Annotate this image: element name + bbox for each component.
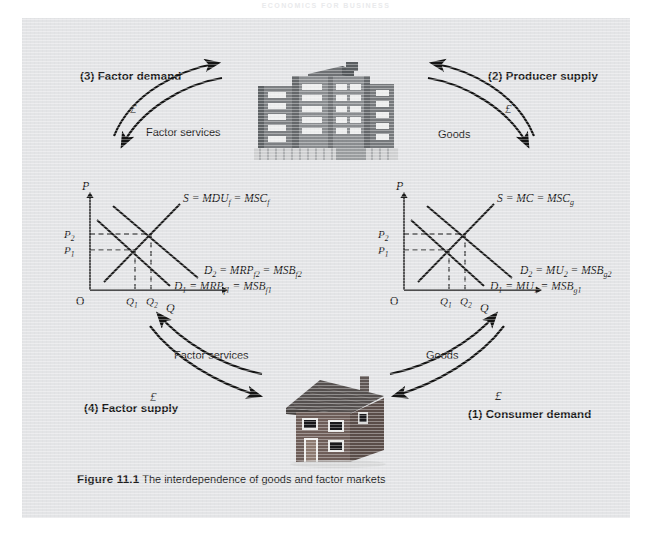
flow-type-goods-bottom: Goods bbox=[426, 350, 458, 361]
y-tick-p1-factor: P1 bbox=[63, 244, 74, 259]
money-symbol-factor-supply: £ bbox=[150, 390, 157, 403]
flow-label-factor-demand: (3) Factor demand bbox=[80, 71, 181, 83]
x-axis-label-goods: Q bbox=[480, 301, 489, 315]
x-axis-label-factor: Q bbox=[166, 301, 175, 315]
figure-caption-text: The interdependence of goods and factor … bbox=[142, 473, 385, 485]
y-tick-p2-factor: P2 bbox=[63, 228, 75, 243]
x-tick-q1-factor: Q1 bbox=[126, 295, 138, 310]
figure-caption: Figure 11.1 The interdependence of goods… bbox=[77, 473, 386, 485]
flow-label-consumer-demand: (1) Consumer demand bbox=[468, 409, 591, 421]
x-tick-q2-factor: Q2 bbox=[146, 295, 158, 310]
chart-goods-market: P Q O P2 P1 Q1 Q2 S = MC = MSCg D2 = MU2… bbox=[370, 178, 640, 318]
curve-supply-goods bbox=[418, 204, 494, 282]
curve-demand2-factor bbox=[113, 206, 198, 278]
money-symbol-producer-supply: £ bbox=[505, 102, 512, 115]
y-tick-p1-goods: P1 bbox=[377, 244, 388, 259]
x-tick-q2-goods: Q2 bbox=[460, 295, 472, 310]
figure-number: Figure 11.1 bbox=[77, 473, 139, 485]
curve-demand1-goods bbox=[411, 220, 484, 286]
origin-label-factor: O bbox=[76, 295, 84, 307]
flow-label-factor-supply: (4) Factor supply bbox=[84, 403, 178, 415]
figure-inner: (3) Factor demand Factor services £ (2) … bbox=[22, 18, 630, 518]
curve-label-demand1-goods: D1 = MU1 = MSBg1 bbox=[489, 280, 582, 295]
y-axis-label-factor: P bbox=[81, 179, 90, 193]
flow-type-factor-services-bottom: Factor services bbox=[174, 350, 249, 361]
x-tick-q1-goods: Q1 bbox=[440, 295, 452, 310]
money-symbol-consumer-demand: £ bbox=[495, 389, 502, 402]
running-head: ECONOMICS FOR BUSINESS bbox=[0, 2, 652, 9]
money-symbol-factor-demand: £ bbox=[130, 102, 137, 115]
origin-label-goods: O bbox=[390, 295, 398, 307]
curve-label-supply-factor: S = MDUf = MSCf bbox=[183, 192, 271, 207]
curve-supply-factor bbox=[104, 204, 180, 282]
flow-type-goods-top: Goods bbox=[438, 129, 470, 140]
y-axis-label-goods: P bbox=[395, 179, 404, 193]
curve-demand1-factor bbox=[97, 220, 170, 286]
curve-label-supply-goods: S = MC = MSCg bbox=[497, 192, 574, 207]
figure-panel: (3) Factor demand Factor services £ (2) … bbox=[22, 18, 630, 518]
curve-label-demand2-goods: D2 = MU2 = MSBg2 bbox=[519, 264, 612, 279]
chart-factor-market: P Q O P2 P1 Q1 Q2 S = MDUf = MSCf D2 = M… bbox=[56, 178, 326, 318]
flow-label-producer-supply: (2) Producer supply bbox=[488, 71, 598, 83]
flow-type-factor-services-top: Factor services bbox=[146, 127, 221, 138]
curve-demand2-goods bbox=[427, 206, 512, 278]
curve-label-demand2-factor: D2 = MRPf2 = MSBf2 bbox=[203, 264, 302, 279]
y-tick-p2-goods: P2 bbox=[377, 228, 389, 243]
